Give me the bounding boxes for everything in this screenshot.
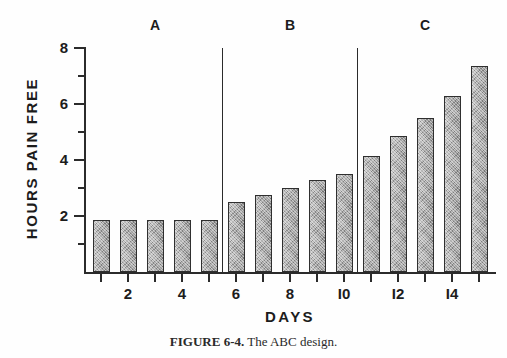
- bar: [255, 195, 272, 272]
- figure-caption-label: FIGURE 6-4.: [170, 334, 244, 349]
- bar: [471, 66, 488, 272]
- x-axis-title: DAYS: [84, 308, 496, 325]
- x-axis-tick: [424, 273, 426, 282]
- bar: [309, 180, 326, 272]
- bar: [336, 174, 353, 272]
- x-axis-tick: [478, 273, 480, 282]
- x-axis-tick: [235, 273, 237, 282]
- phase-label-b: B: [270, 18, 310, 32]
- bar: [282, 188, 299, 272]
- figure-caption: FIGURE 6-4. The ABC design.: [0, 334, 507, 350]
- y-axis-tick-label: 8: [44, 40, 68, 55]
- y-axis-minor-tick: [78, 75, 85, 77]
- x-axis-tick: [100, 273, 102, 282]
- bar: [174, 220, 191, 272]
- y-axis-tick-label: 4: [44, 152, 68, 167]
- figure-container: 2468 2468I0I2I4 ABC HOURS PAIN FREE DAYS…: [0, 0, 507, 358]
- bar: [93, 220, 110, 272]
- chart-plot-area: 2468 2468I0I2I4 ABC HOURS PAIN FREE DAYS: [0, 0, 507, 320]
- x-axis-tick-label: I2: [383, 286, 413, 301]
- phase-divider-line: [357, 48, 359, 272]
- y-axis-tick: [74, 103, 85, 105]
- x-axis-tick: [208, 273, 210, 282]
- x-axis-tick: [451, 273, 453, 282]
- x-axis-tick: [289, 273, 291, 282]
- bar: [120, 220, 137, 272]
- bar: [390, 136, 407, 272]
- bar: [444, 96, 461, 272]
- x-axis-tick-label: 6: [221, 286, 251, 301]
- phase-label-a: A: [135, 18, 175, 32]
- y-axis-minor-tick: [78, 187, 85, 189]
- x-axis-tick: [370, 273, 372, 282]
- x-axis-tick-label: I0: [329, 286, 359, 301]
- x-axis-tick: [181, 273, 183, 282]
- phase-divider-line: [222, 48, 224, 272]
- y-axis-tick-label: 2: [44, 208, 68, 223]
- phase-label-c: C: [405, 18, 445, 32]
- y-axis-title: HOURS PAIN FREE: [23, 54, 40, 264]
- y-axis-tick: [74, 159, 85, 161]
- x-axis-tick: [154, 273, 156, 282]
- y-axis-tick: [74, 47, 85, 49]
- bar: [228, 202, 245, 272]
- x-axis-tick: [316, 273, 318, 282]
- y-axis-tick: [74, 215, 85, 217]
- x-axis-tick-label: 4: [167, 286, 197, 301]
- y-axis-minor-tick: [78, 131, 85, 133]
- x-axis-tick-label: I4: [437, 286, 467, 301]
- bar: [201, 220, 218, 272]
- x-axis-tick: [262, 273, 264, 282]
- y-axis-minor-tick: [78, 243, 85, 245]
- x-axis-tick: [343, 273, 345, 282]
- x-axis-tick: [127, 273, 129, 282]
- bar: [417, 118, 434, 272]
- x-axis-tick: [397, 273, 399, 282]
- x-axis-tick-label: 8: [275, 286, 305, 301]
- x-axis-tick-label: 2: [113, 286, 143, 301]
- figure-caption-text: The ABC design.: [247, 334, 337, 349]
- y-axis-tick-label: 6: [44, 96, 68, 111]
- bar: [147, 220, 164, 272]
- bar: [363, 156, 380, 272]
